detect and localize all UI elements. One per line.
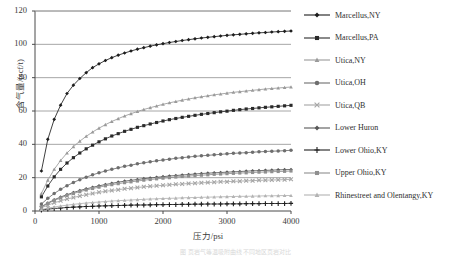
marker-diamond <box>129 49 133 53</box>
marker-plus <box>110 203 114 208</box>
legend-item[interactable]: Utica,NY <box>303 53 366 67</box>
marker-plus <box>238 201 242 206</box>
marker-plus <box>174 202 178 207</box>
marker-diamond <box>270 30 274 34</box>
data-point-circle <box>59 188 63 192</box>
legend-item[interactable]: Utica,QB <box>303 98 365 112</box>
marker-square <box>283 104 286 107</box>
legend-item[interactable]: Utica,OH <box>303 76 366 90</box>
data-point-square <box>53 199 56 202</box>
data-point-diamond <box>315 125 320 130</box>
data-point-square <box>53 175 56 178</box>
marker-square <box>142 124 145 127</box>
data-point-diamond <box>142 46 146 50</box>
data-point-plus <box>135 203 139 208</box>
data-point-plus <box>103 203 107 208</box>
marker-square <box>91 187 94 190</box>
data-point-plus <box>187 202 191 207</box>
marker-square <box>78 190 81 193</box>
data-point-circle <box>148 160 152 164</box>
legend-item[interactable]: Lower Ohio,KY <box>303 143 387 157</box>
data-point-circle <box>225 152 229 156</box>
legend-item[interactable]: Upper Ohio,KY <box>303 166 387 180</box>
data-point-square <box>97 140 100 143</box>
marker-diamond <box>168 41 172 45</box>
marker-diamond <box>244 32 248 36</box>
data-point-diamond <box>97 62 101 66</box>
marker-square <box>104 137 107 140</box>
data-point-plus <box>231 201 235 206</box>
data-point-square <box>181 116 184 119</box>
legend-item[interactable]: Rhinestreet and Olentangy,KY <box>303 188 433 202</box>
data-point-plus <box>238 201 242 206</box>
data-point-plus <box>270 201 274 206</box>
data-point-circle <box>129 163 133 167</box>
marker-diamond <box>136 47 140 51</box>
marker-circle <box>59 188 63 192</box>
marker-circle <box>187 155 191 159</box>
marker-square <box>110 183 113 186</box>
series-line <box>41 31 291 171</box>
marker-square <box>174 175 177 178</box>
data-point-square <box>277 105 280 108</box>
data-point-square <box>264 106 267 109</box>
data-point-square <box>65 194 68 197</box>
data-point-plus <box>78 204 82 209</box>
data-point-diamond <box>264 31 268 35</box>
marker-circle <box>91 173 95 177</box>
chart-figure: 含气量/(scf/t) 压力/psi 020406080100120 01000… <box>0 0 471 259</box>
marker-circle <box>315 80 320 85</box>
data-point-square <box>219 172 222 175</box>
marker-square <box>72 192 75 195</box>
legend-label: Lower Ohio,KY <box>335 146 387 155</box>
marker-square <box>270 170 273 173</box>
marker-circle <box>46 197 50 201</box>
marker-plus <box>142 203 146 208</box>
data-point-diamond <box>40 169 44 173</box>
marker-square <box>85 147 88 150</box>
marker-square <box>53 199 56 202</box>
data-point-square <box>289 169 292 172</box>
series-upper-ohio-ky <box>40 169 293 208</box>
marker-square <box>193 114 196 117</box>
marker-circle <box>97 171 101 175</box>
data-point-square <box>129 180 132 183</box>
marker-square <box>225 172 228 175</box>
data-point-square <box>264 170 267 173</box>
legend-item[interactable]: Marcellus,NY <box>303 8 381 22</box>
marker-circle <box>110 168 114 172</box>
data-point-plus <box>116 203 120 208</box>
legend-symbol <box>303 31 331 45</box>
marker-square <box>289 169 292 172</box>
data-point-circle <box>219 153 223 157</box>
marker-square <box>136 126 139 129</box>
marker-plus <box>231 201 235 206</box>
marker-circle <box>168 157 172 161</box>
marker-diamond <box>264 31 268 35</box>
data-point-square <box>238 108 241 111</box>
data-point-circle <box>84 175 88 179</box>
data-point-square <box>155 121 158 124</box>
legend-symbol <box>303 166 331 180</box>
legend-label: Utica,OH <box>335 78 366 87</box>
data-point-square <box>149 178 152 181</box>
marker-diamond <box>161 42 165 46</box>
legend-item[interactable]: Marcellus,PA <box>303 31 378 45</box>
marker-diamond <box>276 30 280 34</box>
legend-item[interactable]: Lower Huron <box>303 121 378 135</box>
data-point-square <box>97 186 100 189</box>
data-point-diamond <box>116 53 120 57</box>
data-point-diamond <box>187 38 191 42</box>
marker-square <box>219 172 222 175</box>
marker-circle <box>84 175 88 179</box>
data-point-square <box>225 110 228 113</box>
marker-diamond <box>155 43 159 47</box>
marker-square <box>85 188 88 191</box>
marker-circle <box>142 161 146 165</box>
data-point-plus <box>155 202 159 207</box>
marker-plus <box>91 204 95 209</box>
marker-diamond <box>97 62 101 66</box>
marker-diamond <box>174 40 178 44</box>
data-point-circle <box>123 165 127 169</box>
marker-plus <box>155 202 159 207</box>
